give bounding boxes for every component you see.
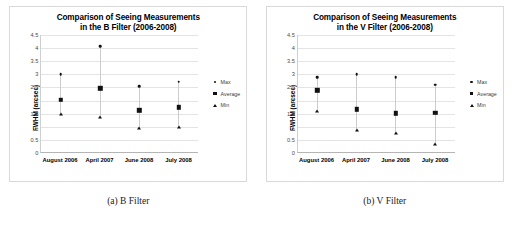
y-tick-label: 4 — [292, 45, 295, 51]
chart-title-b: Comparison of Seeing Measurements in the… — [10, 7, 246, 33]
chart-title-v-line2: in the V Filter (2006-2008) — [277, 23, 493, 33]
gridline — [298, 127, 455, 128]
legend-b: MaxAverageMin — [213, 79, 241, 108]
legend-label: Max — [221, 79, 231, 85]
triangle-marker-icon — [469, 104, 474, 107]
gridline — [298, 140, 455, 141]
data-point-max — [177, 80, 180, 83]
plot-area-b: FWHM (arcsec) 00.511.522.533.544.5 Augus… — [10, 35, 246, 181]
y-tick-label: 0.5 — [287, 137, 295, 143]
square-marker-icon — [469, 92, 474, 95]
legend-label: Min — [477, 102, 486, 108]
y-tick-label: 3 — [292, 71, 295, 77]
gridline — [41, 101, 198, 102]
y-tick-label: 3.5 — [30, 58, 38, 64]
gridline — [298, 101, 455, 102]
data-point-average — [98, 86, 102, 90]
data-point-min — [394, 132, 398, 135]
data-point-average — [176, 105, 180, 109]
data-point-max — [99, 45, 102, 48]
y-tick-label: 2.5 — [287, 84, 295, 90]
legend-item-max[interactable]: Max — [469, 79, 497, 85]
gridline — [41, 74, 198, 75]
chart-title-v-line1: Comparison of Seeing Measurements — [277, 13, 493, 23]
data-point-min — [355, 128, 359, 131]
y-tick-label: 1.5 — [30, 111, 38, 117]
gridline — [41, 127, 198, 128]
figure-caption-a: (a) B Filter — [107, 196, 149, 206]
y-tick-label: 3 — [35, 71, 38, 77]
chart-v-filter: Comparison of Seeing Measurements in the… — [266, 6, 504, 182]
data-point-max — [355, 73, 358, 76]
y-tick-label: 3.5 — [287, 58, 295, 64]
y-tick-label: 0.5 — [30, 137, 38, 143]
plot-canvas-v — [297, 35, 455, 153]
y-tick-label: 4 — [35, 45, 38, 51]
data-point-max — [395, 76, 398, 79]
legend-item-average[interactable]: Average — [213, 91, 241, 97]
y-tick-label: 1 — [292, 124, 295, 130]
gridline — [298, 87, 455, 88]
chart-b-filter: Comparison of Seeing Measurements in the… — [9, 6, 247, 182]
y-tick-label: 2 — [35, 98, 38, 104]
y-axis-ticks-b: 00.511.522.533.544.5 — [22, 35, 39, 153]
legend-item-average[interactable]: Average — [469, 91, 497, 97]
legend-label: Min — [221, 102, 230, 108]
legend-item-min[interactable]: Min — [213, 102, 241, 108]
chart-title-b-line1: Comparison of Seeing Measurements — [20, 13, 236, 23]
x-tick-label: August 2006 — [299, 157, 334, 163]
y-tick-label: 2 — [292, 98, 295, 104]
data-point-min — [137, 127, 141, 130]
chart-title-b-line2: in the B Filter (2006-2008) — [20, 23, 236, 33]
gridline — [298, 35, 455, 36]
error-bar-whisker — [100, 46, 101, 117]
y-tick-label: 4.5 — [287, 32, 295, 38]
error-bar-whisker — [317, 77, 318, 111]
y-tick-label: 1 — [35, 124, 38, 130]
data-point-min — [177, 125, 181, 128]
error-bar-whisker — [356, 74, 357, 129]
y-axis-ticks-v: 00.511.522.533.544.5 — [279, 35, 296, 153]
legend-v: MaxAverageMin — [469, 79, 497, 108]
gridline — [41, 61, 198, 62]
x-tick-label: August 2006 — [42, 157, 77, 163]
gridline — [41, 114, 198, 115]
x-axis-labels-b: August 2006April 2007June 2008July 2008 — [40, 155, 198, 169]
data-point-average — [394, 111, 398, 115]
x-tick-label: June 2008 — [125, 157, 154, 163]
plot-canvas-b — [40, 35, 198, 153]
circle-marker-icon — [213, 81, 218, 84]
legend-label: Average — [221, 91, 241, 97]
x-tick-label: July 2008 — [422, 157, 449, 163]
legend-item-max[interactable]: Max — [213, 79, 241, 85]
figure-panel-b: Comparison of Seeing Measurements in the… — [257, 0, 513, 242]
legend-item-min[interactable]: Min — [469, 102, 497, 108]
y-tick-label: 0 — [35, 150, 38, 156]
legend-label: Average — [477, 91, 497, 97]
gridline — [41, 48, 198, 49]
x-tick-label: April 2007 — [342, 157, 370, 163]
data-point-average — [433, 110, 437, 114]
y-tick-label: 4.5 — [30, 32, 38, 38]
data-point-min — [433, 142, 437, 145]
x-tick-label: April 2007 — [85, 157, 113, 163]
chart-title-v: Comparison of Seeing Measurements in the… — [267, 7, 503, 33]
data-point-min — [98, 115, 102, 118]
gridline — [298, 48, 455, 49]
gridline — [41, 87, 198, 88]
y-tick-label: 0 — [292, 150, 295, 156]
gridline — [298, 74, 455, 75]
error-bar-whisker — [60, 74, 61, 114]
square-marker-icon — [213, 92, 218, 95]
figure-caption-b: (b) V Filter — [363, 196, 406, 206]
figure-panel-a: Comparison of Seeing Measurements in the… — [0, 0, 257, 242]
data-point-max — [316, 76, 319, 79]
data-point-average — [354, 107, 358, 111]
data-point-min — [59, 113, 63, 116]
gridline — [298, 114, 455, 115]
legend-label: Max — [477, 79, 487, 85]
data-point-max — [434, 84, 437, 87]
data-point-max — [138, 85, 141, 88]
data-point-max — [60, 73, 63, 76]
x-tick-label: June 2008 — [381, 157, 410, 163]
